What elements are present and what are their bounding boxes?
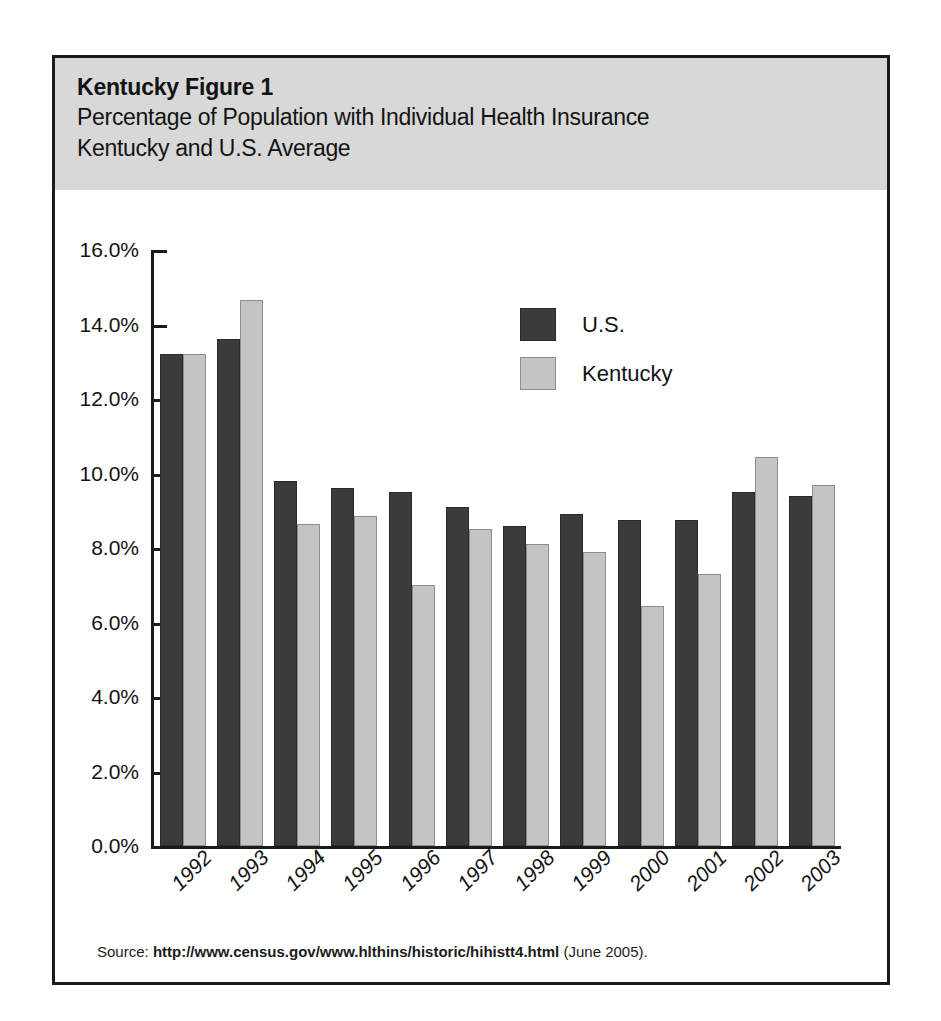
bar-kentucky [755,457,778,846]
bar-us [217,339,240,846]
x-axis-year-label: 1996 [395,845,445,895]
x-axis-year-label: 1992 [166,845,216,895]
y-axis-tick-label: 12.0% [79,387,139,411]
y-axis-tick-label: 16.0% [79,238,139,262]
figure-title-line-1: Percentage of Population with Individual… [77,102,887,133]
bar-group: 1999 [555,250,612,846]
x-axis-year-label: 1995 [338,845,388,895]
x-axis-year-label: 1997 [452,845,502,895]
bar-us [160,354,183,846]
bar-group: 1993 [211,250,268,846]
x-axis-year-label: 1999 [567,845,617,895]
bar-us [732,492,755,846]
bar-kentucky [469,529,492,846]
bar-us [331,488,354,846]
bar-group: 1998 [498,250,555,846]
bar-us [446,507,469,846]
bar-kentucky [354,516,377,846]
plot-area: U.S. Kentucky 16.0%14.0%12.0%10.0%8.0%6.… [55,190,887,982]
bar-kentucky [297,524,320,846]
bar-group: 1994 [269,250,326,846]
bar-kentucky [698,574,721,846]
x-axis-year-label: 1998 [510,845,560,895]
bar-kentucky [412,585,435,846]
bar-group: 1997 [440,250,497,846]
bar-group: 1992 [154,250,211,846]
y-axis-tick-label: 10.0% [79,462,139,486]
y-axis-tick-label: 14.0% [79,313,139,337]
y-axis-tick-label: 6.0% [91,611,139,635]
y-axis-tick-label: 2.0% [91,760,139,784]
bar-group: 2003 [784,250,841,846]
bar-group: 2000 [612,250,669,846]
source-note: Source: http://www.census.gov/www.hlthin… [97,943,648,960]
bar-us [618,520,641,846]
source-prefix: Source: [97,943,153,960]
source-url: http://www.census.gov/www.hlthins/histor… [153,943,559,960]
bar-kentucky [240,300,263,846]
bar-kentucky [183,354,206,846]
y-axis-tick: 0.0% [153,846,167,849]
y-axis-tick-label: 8.0% [91,536,139,560]
figure-header-band: Kentucky Figure 1 Percentage of Populati… [55,58,887,190]
x-axis-year-label: 2000 [624,845,674,895]
y-axis-tick-label: 0.0% [91,834,139,858]
bar-group: 2001 [669,250,726,846]
bar-us [560,514,583,846]
bar-us [503,526,526,846]
x-axis-year-label: 1993 [223,845,273,895]
bar-kentucky [641,606,664,846]
bar-groups: 1992199319941995199619971998199920002001… [154,250,841,846]
bar-us [274,481,297,846]
bar-chart: 16.0%14.0%12.0%10.0%8.0%6.0%4.0%2.0%0.0%… [151,250,841,846]
bar-us [675,520,698,846]
bar-us [789,496,812,846]
y-axis-tick-label: 4.0% [91,685,139,709]
bar-kentucky [812,485,835,846]
bar-group: 1996 [383,250,440,846]
x-axis-year-label: 2003 [796,845,846,895]
bar-us [389,492,412,846]
bar-kentucky [526,544,549,846]
bar-kentucky [583,552,606,846]
bar-group: 1995 [326,250,383,846]
figure-title-line-2: Kentucky and U.S. Average [77,133,887,164]
figure-frame: Kentucky Figure 1 Percentage of Populati… [52,55,890,985]
x-axis-year-label: 1994 [281,845,331,895]
bar-group: 2002 [727,250,784,846]
figure-label: Kentucky Figure 1 [77,72,887,102]
x-axis-year-label: 2002 [739,845,789,895]
source-suffix: (June 2005). [559,943,647,960]
x-axis-year-label: 2001 [681,845,731,895]
